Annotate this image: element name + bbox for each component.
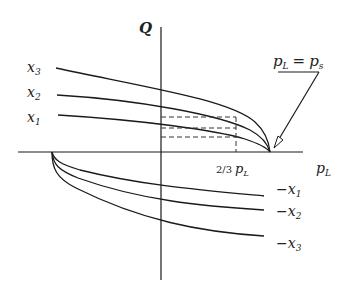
pl-axis-label: pL (316, 160, 331, 178)
curve-neg-x1 (52, 152, 264, 196)
label-neg-x3: −x3 (276, 235, 302, 253)
label-neg-x2: −x2 (276, 203, 302, 221)
annotation-leader (276, 72, 319, 144)
valve-flow-pressure-diagram: Q x3 x2 x1 pL=ps 2/3pL pL −x1 −x2 −x3 (0, 0, 346, 297)
label-x3: x3 (27, 59, 41, 77)
label-x1: x1 (27, 109, 41, 127)
annotation-pl-equals-ps: pL=ps (273, 52, 324, 71)
tick-label-two-thirds-pl: 2/3pL (216, 161, 249, 178)
q-axis-label: Q (139, 19, 152, 37)
label-neg-x1: −x1 (276, 181, 301, 199)
curve-neg-x3 (52, 152, 264, 236)
curve-x1 (58, 115, 270, 152)
curve-x3 (56, 68, 270, 152)
arrow-head-icon (274, 136, 283, 148)
curve-neg-x2 (52, 152, 264, 210)
curve-x2 (57, 95, 270, 152)
label-x2: x2 (27, 84, 41, 102)
